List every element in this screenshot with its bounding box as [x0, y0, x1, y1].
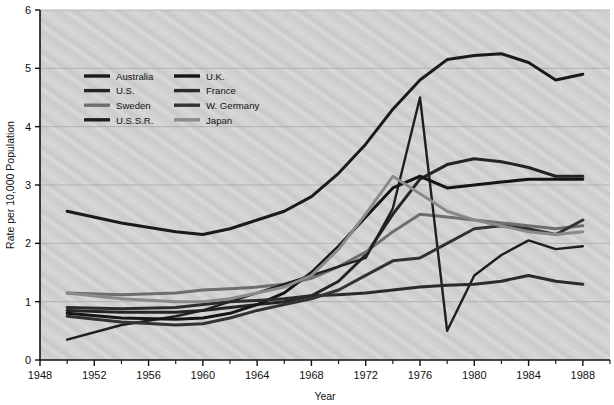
- x-axis-title: Year: [314, 390, 336, 402]
- chart-figure: 0123456 19481952195619601964196819721976…: [0, 0, 614, 405]
- legend-label-japan: Japan: [206, 115, 232, 126]
- y-tick-label: 6: [25, 4, 31, 16]
- legend-label-u-k: U.K.: [206, 71, 225, 82]
- x-tick-label: 1984: [516, 369, 540, 381]
- y-tick-label: 4: [25, 121, 31, 133]
- legend-label-australia: Australia: [116, 71, 154, 82]
- legend-label-w-germany: W. Germany: [206, 100, 260, 111]
- x-tick-label: 1956: [136, 369, 160, 381]
- y-tick-label: 2: [25, 237, 31, 249]
- y-axis-title: Rate per 10,000 Population: [4, 121, 16, 249]
- legend-label-u-s: U.S.: [116, 85, 135, 96]
- legend-label-u-s-s-r: U.S.S.R.: [116, 115, 153, 126]
- x-tick-label: 1976: [408, 369, 432, 381]
- x-tick-label: 1980: [462, 369, 486, 381]
- x-tick-label: 1948: [28, 369, 52, 381]
- y-tick-label: 0: [25, 354, 31, 366]
- x-tick-label: 1964: [245, 369, 269, 381]
- x-axis-ticks: 1948195219561960196419681972197619801984…: [28, 360, 610, 381]
- y-tick-label: 3: [25, 179, 31, 191]
- x-tick-label: 1968: [299, 369, 323, 381]
- x-tick-label: 1988: [571, 369, 595, 381]
- legend-label-sweden: Sweden: [116, 100, 151, 111]
- x-tick-label: 1952: [82, 369, 106, 381]
- y-tick-label: 5: [25, 62, 31, 74]
- y-tick-label: 1: [25, 296, 31, 308]
- y-axis-ticks: 0123456: [25, 4, 40, 366]
- x-tick-label: 1960: [191, 369, 215, 381]
- x-tick-label: 1972: [353, 369, 377, 381]
- line-chart: 0123456 19481952195619601964196819721976…: [0, 0, 614, 405]
- legend-label-france: France: [206, 85, 236, 96]
